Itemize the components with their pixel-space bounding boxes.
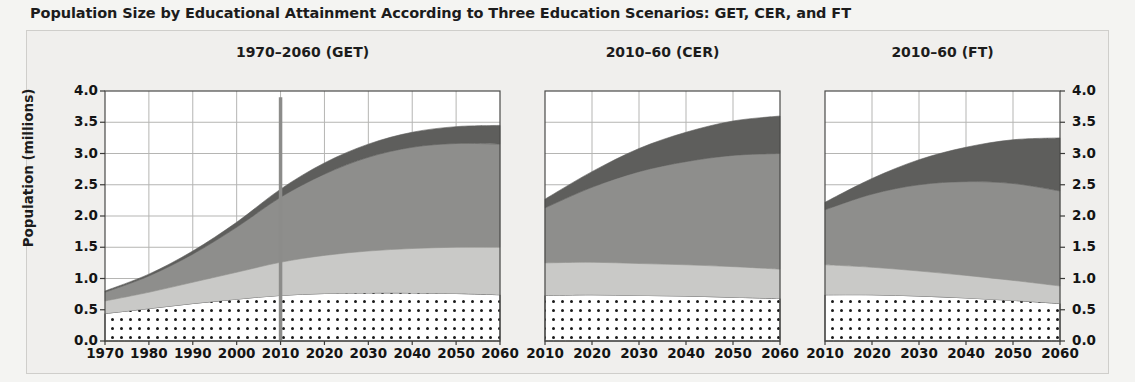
y-tick-label-left: 4.0 (56, 82, 98, 98)
y-tick-label-right: 1.0 (1072, 270, 1114, 286)
x-tick-label: 2020 (569, 345, 615, 361)
y-tick-label-right: 2.5 (1072, 176, 1114, 192)
y-tick-label-left: 2.5 (56, 176, 98, 192)
x-tick-label: 2040 (943, 345, 989, 361)
y-tick-label-left: 1.0 (56, 270, 98, 286)
x-tick-label: 2050 (433, 345, 479, 361)
x-tick-label: 2030 (616, 345, 662, 361)
y-tick-label-right: 4.0 (1072, 82, 1114, 98)
y-tick-label-left: 2.0 (56, 207, 98, 223)
x-tick-label: 2050 (710, 345, 756, 361)
y-tick-label-right: 2.0 (1072, 207, 1114, 223)
plot-canvas (0, 0, 1135, 382)
x-tick-label: 2020 (301, 345, 347, 361)
x-tick-label: 2040 (389, 345, 435, 361)
y-tick-label-left: 1.5 (56, 238, 98, 254)
y-tick-label-left: 3.0 (56, 145, 98, 161)
area-primary-1 (545, 262, 780, 298)
x-tick-label: 1970 (82, 345, 128, 361)
x-tick-label: 2060 (477, 345, 523, 361)
x-tick-label: 1990 (170, 345, 216, 361)
x-tick-label: 2040 (663, 345, 709, 361)
x-tick-label: 1980 (126, 345, 172, 361)
y-tick-label-right: 3.0 (1072, 145, 1114, 161)
x-tick-label: 2010 (258, 345, 304, 361)
x-tick-label: 2010 (522, 345, 568, 361)
x-tick-label: 2000 (214, 345, 260, 361)
y-tick-label-left: 0.5 (56, 301, 98, 317)
panel-1 (545, 91, 780, 345)
panel-0 (105, 91, 500, 345)
x-tick-label: 2010 (802, 345, 848, 361)
y-tick-label-right: 3.5 (1072, 113, 1114, 129)
y-tick-label-left: 3.5 (56, 113, 98, 129)
y-tick-label-right: 1.5 (1072, 238, 1114, 254)
x-tick-label: 2030 (345, 345, 391, 361)
figure-root: Population Size by Educational Attainmen… (0, 0, 1135, 382)
x-tick-label: 2020 (849, 345, 895, 361)
area-no-education-1 (545, 295, 780, 341)
x-tick-label: 2060 (757, 345, 803, 361)
area-no-education-2 (825, 295, 1060, 341)
panel-2 (825, 91, 1060, 345)
x-tick-label: 2030 (896, 345, 942, 361)
x-tick-label: 2050 (990, 345, 1036, 361)
y-tick-label-right: 0.5 (1072, 301, 1114, 317)
x-tick-label: 2060 (1037, 345, 1083, 361)
